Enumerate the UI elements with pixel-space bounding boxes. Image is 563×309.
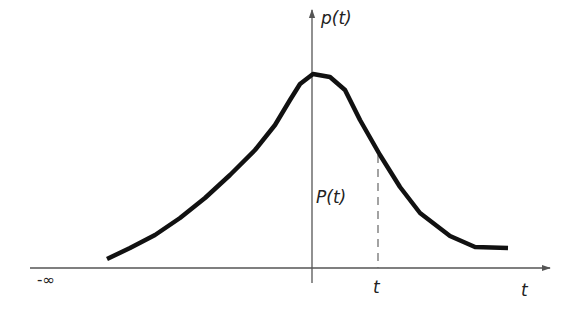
neg-infinity-label: -∞ [37,271,55,289]
t-marker-label: t [373,277,381,297]
density-curve [107,74,508,259]
x-axis-label: t [521,280,529,300]
pdf-diagram: p(t) P(t) t t -∞ [0,0,563,309]
area-label: P(t) [316,187,346,207]
y-axis-label: p(t) [320,8,352,28]
